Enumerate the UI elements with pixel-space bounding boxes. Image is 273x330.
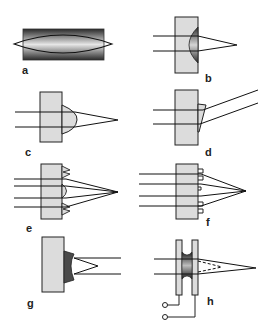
ray xyxy=(66,186,118,192)
panel-label-f: f xyxy=(206,216,210,228)
plate-left xyxy=(176,240,182,295)
panel-g: g xyxy=(27,237,121,309)
electrode-wire xyxy=(167,295,195,317)
panel-label-c: c xyxy=(25,146,31,158)
tuned-ray xyxy=(198,267,222,272)
electrode-wire xyxy=(167,295,179,305)
ray xyxy=(75,112,118,120)
ray xyxy=(200,103,258,124)
terminal-icon xyxy=(163,315,168,320)
ray xyxy=(198,268,256,274)
concave-lens xyxy=(64,251,74,283)
substrate xyxy=(175,90,198,145)
panel-label-d: d xyxy=(205,146,212,158)
microprism xyxy=(198,104,206,132)
panel-c: c xyxy=(15,92,118,158)
panel-label-a: a xyxy=(22,64,29,76)
terminal-icon xyxy=(163,303,168,308)
optics-diagram: a b c d xyxy=(0,0,273,330)
ray xyxy=(66,192,118,207)
panel-d: d xyxy=(153,90,258,158)
panel-label-g: g xyxy=(27,297,34,309)
panel-label-e: e xyxy=(26,222,32,234)
panel-f: f xyxy=(139,164,246,228)
fresnel-zone xyxy=(62,203,70,215)
virtual-ray xyxy=(74,266,98,274)
grin-rod xyxy=(23,29,104,60)
substrate xyxy=(41,164,62,219)
panel-h: h xyxy=(154,240,256,320)
fresnel-zone xyxy=(62,166,70,178)
ray xyxy=(66,192,118,198)
substrate xyxy=(42,237,64,292)
substrate xyxy=(40,92,62,142)
ray xyxy=(198,259,256,268)
panel-a: a xyxy=(14,29,112,76)
panel-b: b xyxy=(153,17,237,84)
plate-right xyxy=(192,240,198,295)
virtual-ray xyxy=(74,258,98,266)
ray xyxy=(66,179,118,192)
binary-step xyxy=(198,202,203,213)
ray xyxy=(203,90,258,110)
ray xyxy=(198,45,237,51)
convex-microlens xyxy=(62,105,77,134)
panel-label-h: h xyxy=(207,295,214,307)
substrate xyxy=(176,164,198,219)
ray xyxy=(201,184,246,191)
ray xyxy=(75,120,118,127)
panel-label-b: b xyxy=(205,72,212,84)
panel-e: e xyxy=(14,164,118,234)
ray xyxy=(201,174,246,191)
lc-lens xyxy=(182,252,192,279)
ray xyxy=(198,36,237,45)
